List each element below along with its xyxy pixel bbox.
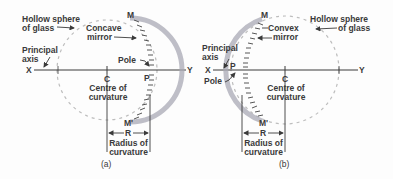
point-p-b: P — [230, 62, 236, 71]
label-line: of glass — [22, 23, 54, 33]
radius-symbol-a: R — [125, 129, 131, 138]
centre-of-curvature-label-a: Centre ofcurvature — [84, 84, 132, 102]
radius-of-curvature-label-b: Radius ofcurvature — [242, 139, 285, 157]
pole-label-b: Pole — [204, 77, 222, 86]
radius-of-curvature-label-a: Radius ofcurvature — [107, 139, 150, 157]
centre-of-curvature-label-b: Centre ofcurvature — [262, 84, 310, 102]
point-x-b: X — [205, 66, 211, 75]
point-y-b: Y — [359, 66, 365, 75]
point-m-prime-a: M' — [124, 119, 133, 128]
pole-label-a: Pole — [118, 56, 136, 65]
radius-symbol-b: R — [260, 129, 266, 138]
label-line: mirror — [268, 32, 298, 42]
label-line: curvature — [89, 92, 128, 102]
label-line: curvature — [109, 147, 148, 157]
point-y-a: Y — [187, 66, 193, 75]
label-line: curvature — [267, 92, 306, 102]
convex-mirror-label: Convexmirror — [268, 24, 299, 42]
label-line: mirror — [86, 32, 112, 42]
point-x-a: X — [26, 66, 32, 75]
label-line: curvature — [244, 147, 283, 157]
label-line: of glass — [310, 23, 370, 33]
caption-b: (b) — [279, 160, 289, 169]
concave-mirror-label: Concavemirror — [86, 24, 121, 42]
hollow-sphere-label-b: Hollow sphereof glass — [310, 15, 370, 33]
caption-a: (a) — [101, 160, 111, 169]
principal-axis-label-b: Principalaxis — [202, 44, 238, 62]
point-p-a: P — [144, 74, 150, 83]
principal-axis-label-a: Principalaxis — [22, 46, 58, 64]
label-line: axis — [202, 52, 219, 62]
point-m-prime-b: M' — [259, 119, 268, 128]
label-line: axis — [22, 54, 39, 64]
point-m-b: M — [261, 11, 268, 20]
hollow-sphere-label-a: Hollow sphereof glass — [22, 15, 80, 33]
point-m-a: M — [127, 11, 134, 20]
mirror-diagram: Hollow sphereof glass Concavemirror M Pr… — [0, 0, 393, 179]
